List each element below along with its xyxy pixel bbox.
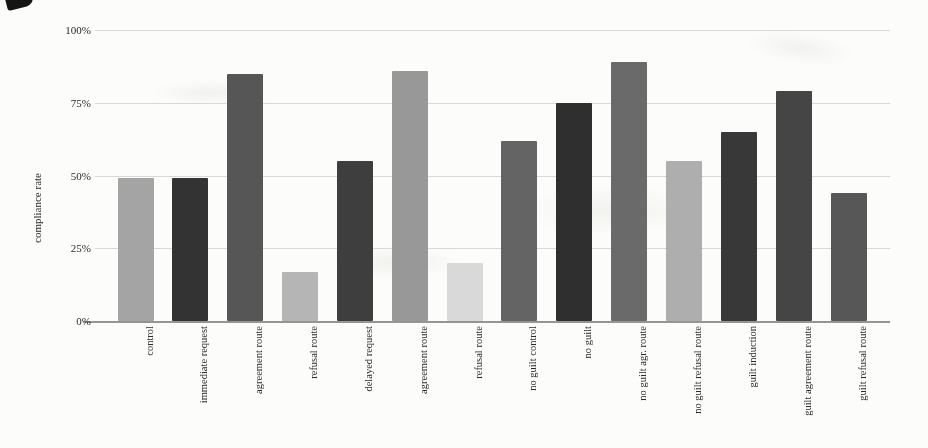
bar-no-guilt-refusal-route [666,161,702,321]
bar-no-guilt-agr-route [611,62,647,321]
bar-guilt-refusal-route [831,193,867,321]
bar-control [118,178,154,321]
x-axis-label: refusal route [472,326,486,432]
scan-smudge [743,25,856,70]
y-axis-title: compliance rate [31,173,43,243]
bar-refusal-route [447,263,483,321]
x-axis-label: guilt agreement route [801,326,815,432]
bar-agreement-route [227,74,263,321]
x-axis-label: delayed request [362,326,376,432]
gridline [95,176,890,177]
bar-no-guilt-control [501,141,537,321]
bar-delayed-request [337,161,373,321]
x-axis-label: guilt induction [746,326,760,432]
bar-immediate-request [172,178,208,321]
y-tick-label: 25% [31,241,91,255]
scan-artifact-mark [5,0,35,11]
bar-refusal-route [282,272,318,321]
scanned-bar-chart-figure: compliance rate 100%75%50%25%0%controlim… [0,0,928,448]
x-axis-label: no guilt refusal route [691,326,705,432]
bar-no-guilt [556,103,592,321]
gridline [95,30,890,31]
x-axis-label: control [143,326,157,432]
y-tick-label: 0% [31,314,91,328]
y-tick-label: 75% [31,96,91,110]
x-axis-label: immediate request [197,326,211,432]
x-axis-line [83,321,890,323]
gridline [95,248,890,249]
y-tick-label: 100% [31,23,91,37]
y-tick-label: 50% [31,169,91,183]
x-axis-label: guilt refusal route [856,326,870,432]
bar-agreement-route [392,71,428,321]
x-axis-label: no guilt [581,326,595,432]
x-axis-label: no guilt control [526,326,540,432]
bar-guilt-agreement-route [776,91,812,321]
gridline [95,103,890,104]
bar-guilt-induction [721,132,757,321]
x-axis-label: agreement route [252,326,266,432]
x-axis-label: agreement route [417,326,431,432]
x-axis-label: refusal route [307,326,321,432]
x-axis-label: no guilt agr. route [636,326,650,432]
